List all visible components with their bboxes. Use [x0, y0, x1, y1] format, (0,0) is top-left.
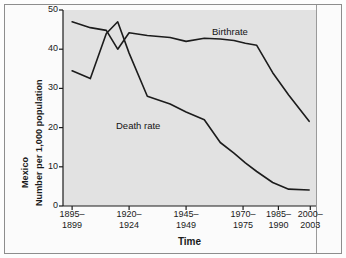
x-axis-ticks [72, 206, 310, 210]
figure-container: Mexico Number per 1,000 population 01020… [0, 0, 346, 258]
data-series-lines [72, 22, 309, 190]
x-axis-title: Time [63, 236, 316, 247]
series-label-death-rate: Death rate [116, 120, 160, 131]
series-line-birthrate [72, 22, 309, 122]
series-label-birthrate: Birthrate [212, 26, 248, 37]
chart-plot [0, 0, 346, 258]
series-line-death-rate [72, 22, 309, 190]
axis-lines [63, 10, 316, 206]
